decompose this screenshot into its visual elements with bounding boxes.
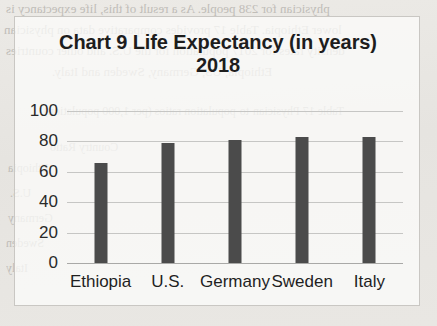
bar — [363, 137, 376, 263]
y-axis-tick-label: 60 — [39, 162, 58, 182]
y-axis-tick-label: 20 — [39, 223, 58, 243]
bar — [94, 163, 107, 263]
y-axis-tick-label: 40 — [39, 192, 58, 212]
chart-container: Chart 9 Life Expectancy (in years) 2018 … — [14, 16, 420, 306]
bar-group: Ethiopia — [67, 111, 134, 263]
bar — [228, 140, 241, 263]
bar — [296, 137, 309, 263]
x-axis-tick-label: U.S. — [151, 272, 184, 292]
bar-group: Germany — [201, 111, 268, 263]
plot-area: 020406080100 EthiopiaU.S.GermanySwedenIt… — [67, 111, 403, 263]
y-axis-tick-label: 100 — [30, 101, 58, 121]
x-axis-tick-label: Ethiopia — [70, 272, 131, 292]
bar-series: EthiopiaU.S.GermanySwedenItaly — [67, 111, 403, 263]
y-axis-tick-label: 0 — [49, 253, 58, 273]
chart-title: Chart 9 Life Expectancy (in years) 2018 — [41, 31, 395, 77]
y-axis-tick-label: 80 — [39, 131, 58, 151]
bar-group: Italy — [336, 111, 403, 263]
x-axis-tick-label: Sweden — [271, 272, 332, 292]
bar-group: Sweden — [269, 111, 336, 263]
gridline — [67, 263, 403, 264]
x-axis-tick-label: Germany — [200, 272, 270, 292]
bar — [161, 143, 174, 263]
x-axis-tick-label: Italy — [354, 272, 385, 292]
bar-group: U.S. — [134, 111, 201, 263]
